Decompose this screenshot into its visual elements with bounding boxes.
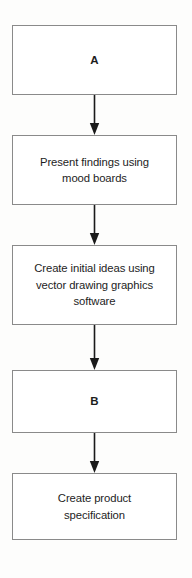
- flowchart-node-present-findings-label: Present findings using mood boards: [34, 154, 155, 187]
- down-arrow-icon: [0, 325, 192, 370]
- flowchart-node-present-findings: Present findings using mood boards: [12, 135, 177, 205]
- flowchart-node-a-label: A: [84, 52, 105, 69]
- flowchart-node-b: B: [12, 370, 177, 433]
- flowchart-node-create-product-specification-label: Create product specification: [52, 490, 137, 523]
- flowchart-diagram: A Present findings using mood boards Cre…: [0, 0, 192, 578]
- flowchart-node-create-initial-ideas-label: Create initial ideas using vector drawin…: [28, 260, 160, 310]
- flowchart-connector-a-to-present: [0, 95, 192, 135]
- flowchart-node-create-initial-ideas: Create initial ideas using vector drawin…: [12, 245, 177, 325]
- flowchart-connector-present-to-create: [0, 205, 192, 245]
- flowchart-node-create-product-specification: Create product specification: [12, 473, 177, 540]
- flowchart-node-a: A: [12, 25, 177, 95]
- flowchart-connector-b-to-spec: [0, 433, 192, 473]
- down-arrow-icon: [0, 205, 192, 245]
- down-arrow-icon: [0, 95, 192, 135]
- flowchart-connector-create-to-b: [0, 325, 192, 370]
- down-arrow-icon: [0, 433, 192, 473]
- flowchart-node-b-label: B: [84, 393, 105, 410]
